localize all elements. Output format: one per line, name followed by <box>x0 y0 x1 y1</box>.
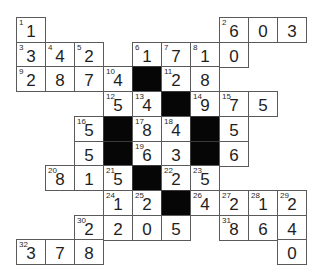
cell-digit: 8 <box>220 220 248 239</box>
grid-cell[interactable]: 0 <box>277 239 307 265</box>
cell-digit: 2 <box>104 220 132 239</box>
grid-cell[interactable]: 125 <box>103 91 133 117</box>
cell-digit: 8 <box>46 71 74 90</box>
cell-digit: 2 <box>75 220 103 239</box>
cell-digit: 0 <box>278 244 306 263</box>
grid-cell[interactable]: 5 <box>161 215 191 241</box>
grid-cell[interactable]: 2 <box>103 215 133 241</box>
grid-cell[interactable]: 8 <box>45 66 75 92</box>
grid-cell[interactable]: 235 <box>190 165 220 191</box>
grid-cell[interactable]: 26 <box>219 17 249 43</box>
grid-cell[interactable]: 318 <box>219 215 249 241</box>
grid-cell[interactable]: 81 <box>190 42 220 68</box>
cell-digit: 2 <box>75 47 103 66</box>
grid-cell[interactable]: 112 <box>161 66 191 92</box>
cell-digit: 4 <box>191 195 219 214</box>
grid-cell[interactable]: 241 <box>103 190 133 216</box>
cell-digit: 7 <box>75 71 103 90</box>
grid-cell[interactable]: 8 <box>190 66 220 92</box>
cell-digit: 1 <box>17 22 45 41</box>
grid-cell[interactable]: 292 <box>277 190 307 216</box>
grid-cell[interactable]: 3 <box>161 141 191 167</box>
grid-cell[interactable]: 5 <box>248 91 278 117</box>
grid-cell[interactable]: 8 <box>74 239 104 265</box>
cell-digit: 0 <box>220 47 248 66</box>
grid-cell[interactable]: 61 <box>132 42 162 68</box>
grid-cell[interactable]: 104 <box>103 66 133 92</box>
cell-digit: 5 <box>75 121 103 140</box>
cell-digit: 4 <box>278 220 306 239</box>
grid-cell[interactable]: 208 <box>45 165 75 191</box>
cell-digit: 1 <box>104 195 132 214</box>
grid-cell[interactable]: 302 <box>74 215 104 241</box>
block-cell <box>132 165 162 191</box>
grid-cell[interactable]: 0 <box>132 215 162 241</box>
grid-cell[interactable]: 7 <box>74 66 104 92</box>
grid-cell[interactable]: 323 <box>16 239 46 265</box>
cell-digit: 3 <box>162 146 190 165</box>
grid-cell[interactable]: 3 <box>277 17 307 43</box>
grid-cell[interactable]: 281 <box>248 190 278 216</box>
block-cell <box>103 141 133 167</box>
grid-cell[interactable]: 215 <box>103 165 133 191</box>
cell-digit: 3 <box>17 47 45 66</box>
grid-cell[interactable]: 77 <box>161 42 191 68</box>
cell-digit: 6 <box>133 146 161 165</box>
grid-cell[interactable]: 272 <box>219 190 249 216</box>
cell-digit: 6 <box>220 146 248 165</box>
grid-cell[interactable]: 7 <box>45 239 75 265</box>
block-cell <box>103 116 133 142</box>
grid-cell[interactable]: 92 <box>16 66 46 92</box>
cell-digit: 3 <box>278 22 306 41</box>
grid-cell[interactable]: 264 <box>190 190 220 216</box>
grid-cell[interactable]: 157 <box>219 91 249 117</box>
cell-digit: 8 <box>191 71 219 90</box>
grid-cell[interactable]: 252 <box>132 190 162 216</box>
cell-digit: 6 <box>249 220 277 239</box>
grid-cell[interactable]: 4 <box>277 215 307 241</box>
block-cell <box>161 190 191 216</box>
cell-digit: 2 <box>17 71 45 90</box>
grid-cell[interactable]: 165 <box>74 116 104 142</box>
cell-digit: 8 <box>133 121 161 140</box>
cell-digit: 3 <box>17 244 45 263</box>
cell-digit: 5 <box>75 146 103 165</box>
grid-cell[interactable]: 11 <box>16 17 46 43</box>
cell-digit: 5 <box>191 170 219 189</box>
grid-cell[interactable]: 178 <box>132 116 162 142</box>
block-cell <box>161 91 191 117</box>
cell-digit: 8 <box>46 170 74 189</box>
grid-cell[interactable]: 0 <box>219 42 249 68</box>
grid-cell[interactable]: 149 <box>190 91 220 117</box>
cell-digit: 5 <box>104 96 132 115</box>
cell-digit: 2 <box>220 195 248 214</box>
cell-digit: 4 <box>104 71 132 90</box>
grid-cell[interactable]: 5 <box>74 141 104 167</box>
cell-digit: 0 <box>249 22 277 41</box>
grid-cell[interactable]: 222 <box>161 165 191 191</box>
cell-digit: 4 <box>46 47 74 66</box>
cell-digit: 7 <box>220 96 248 115</box>
cell-digit: 7 <box>162 47 190 66</box>
cell-digit: 9 <box>191 96 219 115</box>
grid-cell[interactable]: 0 <box>248 17 278 43</box>
grid-cell[interactable]: 184 <box>161 116 191 142</box>
cell-digit: 7 <box>46 244 74 263</box>
cell-digit: 2 <box>162 71 190 90</box>
cell-digit: 4 <box>162 121 190 140</box>
grid-cell[interactable]: 5 <box>219 116 249 142</box>
grid-cell[interactable]: 6 <box>219 141 249 167</box>
grid-cell[interactable]: 33 <box>16 42 46 68</box>
grid-cell[interactable]: 1 <box>74 165 104 191</box>
grid-cell[interactable]: 196 <box>132 141 162 167</box>
cell-digit: 5 <box>249 96 277 115</box>
grid-cell[interactable]: 134 <box>132 91 162 117</box>
cell-digit: 5 <box>162 220 190 239</box>
cell-digit: 1 <box>133 47 161 66</box>
cell-digit: 5 <box>220 121 248 140</box>
cell-digit: 1 <box>75 170 103 189</box>
grid-cell[interactable]: 52 <box>74 42 104 68</box>
grid-cell[interactable]: 44 <box>45 42 75 68</box>
grid-cell[interactable]: 6 <box>248 215 278 241</box>
block-cell <box>132 66 162 92</box>
